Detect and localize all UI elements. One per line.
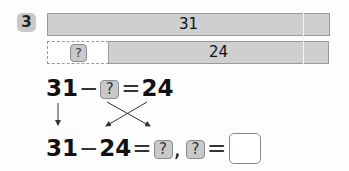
equals-sign: =	[132, 135, 151, 161]
eq2-unknown-badge-2: ?	[186, 140, 205, 159]
equals-sign: =	[207, 135, 226, 161]
eq2-middle: 24	[99, 135, 131, 161]
eq2-unknown-badge: ?	[154, 140, 173, 159]
answer-input-box[interactable]	[229, 133, 261, 164]
equation-2: 31−24=?,?=	[46, 133, 261, 164]
comma-separator: ,	[174, 135, 181, 161]
minus-sign: −	[79, 135, 98, 161]
eq2-left: 31	[46, 135, 78, 161]
